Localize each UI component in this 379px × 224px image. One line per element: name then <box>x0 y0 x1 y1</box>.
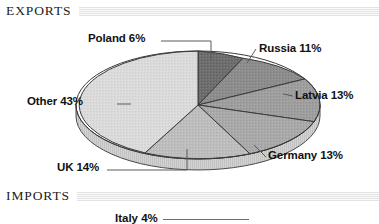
page-title: EXPORTS <box>0 3 72 19</box>
pie-label-poland: Poland 6% <box>88 32 145 44</box>
pie-label-latvia: Latvia 13% <box>295 89 353 101</box>
leader-line-italy-partial <box>163 219 249 220</box>
imports-section-header: IMPORTS <box>0 186 379 206</box>
imports-title: IMPORTS <box>0 188 70 204</box>
pie-label-other: Other 43% <box>27 95 83 107</box>
header-rule-divider <box>79 7 379 16</box>
pie-label-germany: Germany 13% <box>268 149 343 161</box>
pie-label-russia: Russia 11% <box>259 42 321 54</box>
pie-label-uk: UK 14% <box>57 161 99 173</box>
imports-header-rule-divider <box>77 192 379 201</box>
pie-label-italy-partial: Italy 4% <box>115 212 158 224</box>
